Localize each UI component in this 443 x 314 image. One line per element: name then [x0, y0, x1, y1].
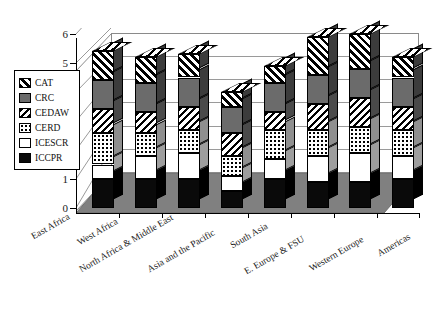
bar-side-cedaw [414, 93, 423, 121]
bar-segment-cerd [264, 130, 286, 159]
bar-side-cedaw [114, 96, 123, 124]
bar-segment-crc [135, 83, 157, 112]
bar-segment-crc [307, 75, 329, 104]
x-tick-5 [334, 213, 335, 218]
legend-swatch-iccpr [19, 153, 31, 163]
x-tick-0 [119, 213, 120, 218]
legend-swatch-cedaw [19, 108, 31, 118]
bar-side-crc [371, 55, 380, 88]
y-tick-label-6: 6 [46, 29, 68, 40]
bar-segment-icescr [392, 156, 414, 179]
bar-segment-crc [349, 69, 371, 98]
x-tick-2 [205, 213, 206, 218]
bar-side-crc [286, 70, 295, 103]
bar-segment-cerd [349, 127, 371, 153]
y-tick-0 [70, 208, 76, 209]
bar-segment-crc [92, 80, 114, 109]
bar-segment-icescr [135, 156, 157, 179]
x-tick-7 [419, 213, 420, 218]
legend-item-cat: CAT [19, 75, 75, 90]
bar-segment-crc [221, 107, 243, 133]
bar-segment-cat [307, 37, 329, 75]
legend-swatch-cerd [19, 123, 31, 133]
bar-americas [392, 0, 414, 260]
bar-side-iccpr [200, 166, 209, 199]
bar-segment-cedaw [307, 104, 329, 130]
bar-segment-icescr [178, 153, 200, 179]
bar-side-cerd [286, 116, 295, 149]
bar-north-africa-middle-east [178, 0, 200, 260]
bar-segment-cerd [392, 130, 414, 156]
y-tick-5 [70, 63, 76, 64]
bar-segment-icescr [221, 176, 243, 191]
bar-segment-cat [264, 66, 286, 83]
bar-segment-icescr [349, 153, 371, 182]
bar-top-cap [392, 48, 432, 57]
bar-side-icescr [200, 140, 209, 170]
bar-segment-iccpr [392, 179, 414, 208]
y-tick-label-1: 1 [46, 174, 68, 185]
bar-segment-cerd [135, 133, 157, 156]
legend-label-cerd: CERD [35, 123, 60, 133]
bar-segment-cat [92, 51, 114, 80]
x-tick-4 [291, 213, 292, 218]
y-tick-label-5: 5 [46, 58, 68, 69]
legend-item-icescr: ICESCR [19, 135, 75, 150]
bar-segment-icescr [264, 159, 286, 179]
bar-side-cerd [329, 116, 338, 146]
bar-segment-crc [264, 83, 286, 112]
legend-label-icescr: ICESCR [35, 138, 68, 148]
bar-segment-icescr [307, 156, 329, 182]
legend-swatch-cat [19, 78, 31, 88]
bar-segment-cedaw [392, 107, 414, 130]
bar-side-crc [157, 70, 166, 103]
bar-segment-cat [135, 57, 157, 83]
bar-segment-cedaw [349, 98, 371, 127]
bar-segment-cerd [178, 130, 200, 153]
bar-segment-cat [221, 92, 243, 107]
legend-label-cedaw: CEDAW [35, 108, 69, 118]
bar-side-icescr [414, 142, 423, 170]
x-label-east-africa: East Africa [30, 211, 72, 241]
bar-side-iccpr [114, 166, 123, 199]
bar-side-iccpr [157, 166, 166, 199]
bar-side-cerd [114, 119, 123, 155]
bar-segment-iccpr [264, 179, 286, 208]
bar-side-icescr [371, 140, 380, 173]
legend-label-crc: CRC [35, 93, 54, 103]
bar-segment-crc [392, 78, 414, 107]
bar-side-cerd [414, 116, 423, 146]
bar-segment-iccpr [178, 179, 200, 208]
legend-label-iccpr: ICCPR [35, 153, 62, 163]
bar-segment-cedaw [178, 107, 200, 130]
bar-segment-cerd [221, 156, 243, 176]
x-tick-3 [248, 213, 249, 218]
legend-item-iccpr: ICCPR [19, 150, 75, 165]
bar-side-crc [243, 93, 252, 123]
bar-side-crc [414, 64, 423, 97]
bar-segment-iccpr [92, 179, 114, 208]
bar-side-cerd [157, 119, 166, 147]
bar-western-europe [349, 0, 371, 260]
bar-south-asia [264, 0, 286, 260]
bar-side-iccpr [371, 169, 380, 199]
legend-swatch-icescr [19, 138, 31, 148]
bar-segment-crc [178, 78, 200, 107]
bar-segment-icescr [92, 165, 114, 180]
bar-segment-cedaw [221, 133, 243, 156]
bar-segment-iccpr [349, 182, 371, 208]
bar-segment-cedaw [135, 112, 157, 132]
bar-side-iccpr [329, 169, 338, 199]
bar-e-europe-fsu [307, 0, 329, 260]
y-tick-6 [70, 34, 76, 35]
bar-side-iccpr [286, 166, 295, 199]
bar-side-cerd [371, 113, 380, 143]
bar-segment-cerd [307, 130, 329, 156]
x-tick-6 [377, 213, 378, 218]
bar-segment-cat [392, 57, 414, 77]
chart-legend: CAT CRC CEDAW CERD ICESCR ICCPR [14, 70, 80, 170]
bar-side-cedaw [329, 90, 338, 120]
bar-side-iccpr [414, 166, 423, 199]
bar-segment-cedaw [264, 112, 286, 129]
legend-item-cerd: CERD [19, 120, 75, 135]
